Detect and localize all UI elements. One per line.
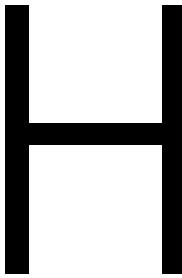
left-stem: [5, 5, 29, 274]
glyph-character: H: [0, 0, 1, 1]
right-stem: [162, 5, 182, 274]
letter-h-glyph: H: [0, 0, 182, 278]
crossbar: [29, 123, 162, 145]
